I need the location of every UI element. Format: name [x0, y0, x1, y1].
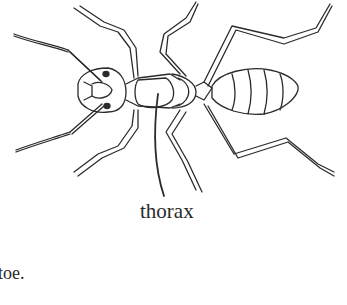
leg-front-upper: [74, 6, 138, 78]
caption-text: toe.: [0, 263, 25, 284]
leg-middle-upper: [160, 2, 198, 76]
head: [78, 68, 126, 112]
leg-hind-lower: [204, 104, 334, 176]
thorax: [126, 74, 196, 108]
leg-hind-upper: [204, 4, 332, 86]
antenna-lower: [16, 104, 104, 152]
petiole: [196, 82, 212, 100]
ant-diagram: [0, 0, 347, 220]
thorax-pointer-line: [155, 94, 164, 196]
abdomen: [212, 69, 298, 115]
leg-middle-lower: [166, 110, 202, 192]
thorax-label: thorax: [140, 199, 194, 224]
antenna-upper: [14, 34, 102, 82]
